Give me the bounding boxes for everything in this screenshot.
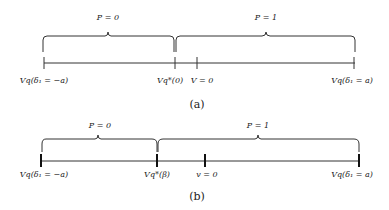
- point-label-vstar-b: Vq*(β): [144, 170, 170, 179]
- point-label-left-a: Vq(δ₁ = −a): [20, 76, 68, 85]
- region-label-p0-a: P = 0: [96, 13, 119, 22]
- region-label-p1-a: P = 1: [254, 13, 277, 22]
- panel-b: P = 0 P = 1 Vq(δ₁ = −a) Vq*(β) v = 0 Vq(…: [20, 121, 373, 203]
- diagram: P = 0 P = 1 Vq(δ₁ = −a) Vq*(0) V = 0 Vq(…: [0, 0, 389, 210]
- region-label-p1-b: P = 1: [246, 121, 269, 130]
- point-label-right-a: Vq(δ₁ = a): [331, 76, 373, 85]
- point-label-zero-b: v = 0: [196, 170, 217, 179]
- brace-p0-b: [42, 135, 157, 152]
- caption-a: (a): [189, 98, 204, 111]
- point-label-right-b: Vq(δ₁ = a): [331, 170, 373, 179]
- brace-p0-a: [43, 32, 174, 52]
- brace-p1-a: [176, 32, 355, 52]
- point-label-zero-a: V = 0: [191, 76, 214, 85]
- caption-b: (b): [189, 190, 205, 203]
- point-label-left-b: Vq(δ₁ = −a): [20, 170, 68, 179]
- brace-p1-b: [158, 135, 359, 152]
- point-label-vstar-a: Vq*(0): [157, 76, 183, 85]
- panel-a: P = 0 P = 1 Vq(δ₁ = −a) Vq*(0) V = 0 Vq(…: [20, 13, 373, 111]
- region-label-p0-b: P = 0: [88, 121, 111, 130]
